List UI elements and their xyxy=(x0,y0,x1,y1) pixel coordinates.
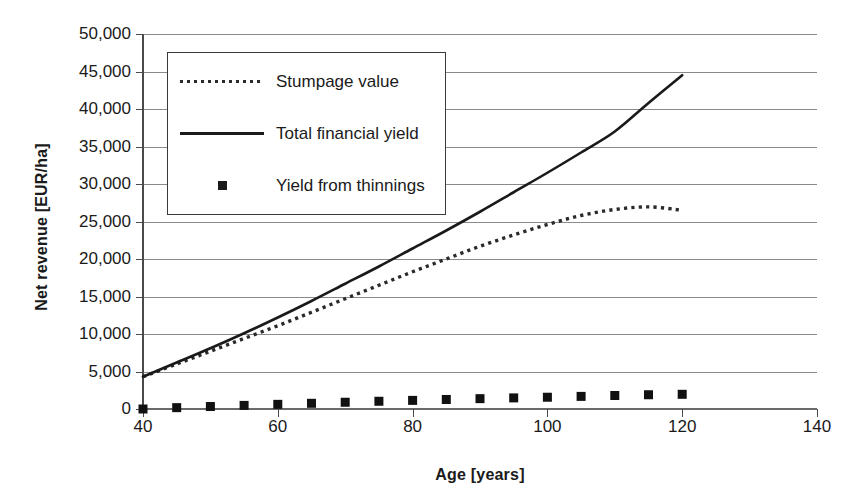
data-point-marker xyxy=(442,395,451,404)
solid-line-key xyxy=(168,132,276,135)
x-tick-mark xyxy=(682,409,683,417)
data-point-marker xyxy=(307,399,316,408)
x-tick-label: 100 xyxy=(507,418,587,435)
data-point-marker xyxy=(543,393,552,402)
chart-legend: Stumpage value Total financial yield Yie… xyxy=(167,52,446,215)
legend-item-stumpage-value: Stumpage value xyxy=(168,61,445,101)
data-point-marker xyxy=(206,402,215,411)
legend-label: Total financial yield xyxy=(276,124,419,143)
x-tick-mark xyxy=(817,409,818,417)
legend-item-yield-from-thinnings: Yield from thinnings xyxy=(168,165,445,205)
data-point-marker xyxy=(240,401,249,410)
y-tick-label: 15,000 xyxy=(23,288,131,305)
x-tick-label: 80 xyxy=(373,418,453,435)
y-tick-label: 35,000 xyxy=(23,138,131,155)
data-point-marker xyxy=(408,396,417,405)
x-axis-title: Age [years] xyxy=(143,466,817,484)
y-tick-label: 30,000 xyxy=(23,175,131,192)
legend-label: Yield from thinnings xyxy=(276,176,425,195)
x-tick-label: 40 xyxy=(103,418,183,435)
data-point-marker xyxy=(577,392,586,401)
x-tick-mark xyxy=(413,409,414,417)
data-point-marker xyxy=(139,405,148,414)
series-stumpage-value xyxy=(143,207,682,377)
data-point-marker xyxy=(172,403,181,412)
x-tick-mark xyxy=(278,409,279,417)
y-tick-label: 0 xyxy=(23,400,131,417)
chart-container: Net revenue [EUR/ha] Age [years] 05,0001… xyxy=(0,0,862,501)
y-tick-label: 10,000 xyxy=(23,325,131,342)
dotted-line-key xyxy=(168,80,276,83)
y-tick-label: 5,000 xyxy=(23,363,131,380)
x-tick-label: 60 xyxy=(238,418,318,435)
y-tick-label: 40,000 xyxy=(23,100,131,117)
y-tick-label: 50,000 xyxy=(23,25,131,42)
x-tick-label: 120 xyxy=(642,418,722,435)
data-point-marker xyxy=(476,394,485,403)
data-point-marker xyxy=(374,397,383,406)
data-point-marker xyxy=(341,398,350,407)
y-tick-label: 45,000 xyxy=(23,63,131,80)
x-tick-label: 140 xyxy=(777,418,857,435)
x-tick-mark xyxy=(547,409,548,417)
data-point-marker xyxy=(644,390,653,399)
square-marker-key xyxy=(168,181,276,190)
data-point-marker xyxy=(678,390,687,399)
legend-label: Stumpage value xyxy=(276,72,399,91)
y-tick-label: 25,000 xyxy=(23,213,131,230)
legend-item-total-financial-yield: Total financial yield xyxy=(168,113,445,153)
y-tick-label: 20,000 xyxy=(23,250,131,267)
data-point-marker xyxy=(273,400,282,409)
data-point-marker xyxy=(509,393,518,402)
data-point-marker xyxy=(610,391,619,400)
